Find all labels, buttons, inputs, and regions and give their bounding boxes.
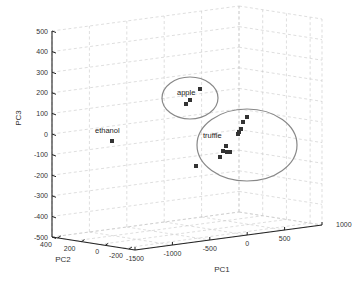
grid-line <box>89 232 172 245</box>
grid-line <box>239 171 322 184</box>
data-point-truffle <box>194 164 198 168</box>
grid-line <box>239 150 322 163</box>
pc3-tick-label: -200 <box>34 172 48 179</box>
data-point-apple <box>184 102 188 106</box>
pc3-tick-mark <box>52 113 56 115</box>
pc1-tick-label: 500 <box>279 235 291 242</box>
data-points <box>110 87 249 168</box>
pc3-tick-mark <box>52 52 56 54</box>
grid-line <box>52 171 239 196</box>
pca-3d-scatter-plot: 5004003002001000-100-200-300-400-5004002… <box>0 0 356 281</box>
pc1-tick-label: 0 <box>245 240 249 247</box>
data-point-truffle <box>218 155 222 159</box>
grid-line <box>52 27 239 52</box>
pc3-tick-label: -400 <box>34 213 48 220</box>
grid-line <box>52 150 239 175</box>
data-point-ethanol <box>110 139 114 143</box>
pc3-tick-mark <box>52 31 56 33</box>
pc3-tick-label: 100 <box>36 110 48 117</box>
data-point-truffle <box>236 132 240 136</box>
truffle-cluster-ellipse <box>197 109 297 181</box>
grid-line <box>239 68 322 81</box>
pc3-tick-mark <box>52 175 56 177</box>
axis-label-pc1: PC1 <box>214 265 230 274</box>
data-point-apple <box>198 87 202 91</box>
grid-lines <box>52 6 322 250</box>
pc3-tick-label: -500 <box>34 234 48 241</box>
pc2-tick-label: 400 <box>40 241 52 248</box>
pc1-tick-label: -500 <box>203 245 217 252</box>
pc3-tick-mark <box>52 196 56 198</box>
grid-line <box>52 88 239 113</box>
tick-labels: 5004003002001000-100-200-300-400-5004002… <box>34 28 352 263</box>
axes <box>52 31 322 250</box>
grid-line <box>239 109 322 122</box>
grid-line <box>52 212 239 237</box>
pc3-tick-label: 200 <box>36 89 48 96</box>
grid-line <box>239 88 322 101</box>
pc1-tick-label: 1000 <box>336 221 352 228</box>
pc3-tick-label: 400 <box>36 48 48 55</box>
pc1-tick-label: -1000 <box>163 250 181 257</box>
annotation-apple: apple <box>177 88 195 97</box>
axis-label-pc2: PC2 <box>55 255 71 264</box>
pc3-tick-mark <box>52 93 56 95</box>
axis-label-pc3: PC3 <box>14 110 23 126</box>
pc3-tick-label: 0 <box>44 131 48 138</box>
pc1-tick-label: -1500 <box>126 255 144 262</box>
annotation-truffle: truffle <box>203 131 222 140</box>
data-point-truffle <box>224 144 228 148</box>
pc3-tick-label: 300 <box>36 69 48 76</box>
grid-line <box>239 47 322 60</box>
pc3-tick-label: -100 <box>34 151 48 158</box>
pc2-tick-label: 200 <box>64 245 76 252</box>
annotation-ethanol: ethanol <box>95 126 120 135</box>
grid-line <box>52 68 239 93</box>
data-point-truffle <box>221 149 225 153</box>
grid-line <box>52 6 239 31</box>
pc3-tick-mark <box>52 216 56 218</box>
pc2-tick-label: 0 <box>95 248 99 255</box>
data-point-truffle <box>228 150 232 154</box>
data-point-apple <box>188 98 192 102</box>
pc2-tick-label: -200 <box>109 252 123 259</box>
data-point-truffle <box>245 115 249 119</box>
grid-line <box>99 219 286 244</box>
grid-line <box>239 130 322 143</box>
grid-line <box>239 27 322 40</box>
data-point-truffle <box>241 120 245 124</box>
pc3-tick-label: -300 <box>34 192 48 199</box>
grid-line <box>239 191 322 204</box>
grid-line <box>52 47 239 72</box>
pc3-tick-mark <box>52 155 56 157</box>
grid-line <box>52 191 239 216</box>
pc3-tick-mark <box>52 134 56 136</box>
pc3-tick-mark <box>52 72 56 74</box>
grid-line <box>239 6 322 19</box>
pc3-tick-label: 500 <box>36 28 48 35</box>
grid-line <box>127 227 210 240</box>
